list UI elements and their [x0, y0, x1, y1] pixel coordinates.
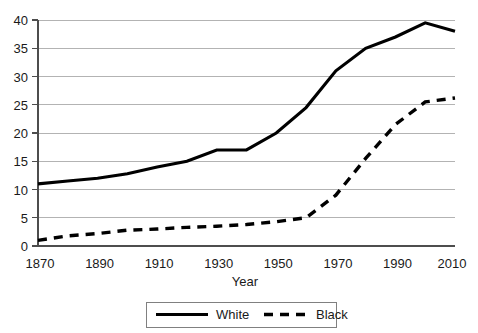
x-tick-label-1930: 1930	[204, 256, 233, 271]
y-tick-label-0: 0	[21, 239, 28, 254]
x-tick-label-2010: 2010	[438, 256, 467, 271]
x-tick-label-1990: 1990	[383, 256, 412, 271]
chart-legend: White Black	[146, 302, 348, 327]
y-tick-label-10: 10	[14, 183, 28, 198]
gridlines	[38, 20, 455, 218]
y-tick-label-20: 20	[14, 126, 28, 141]
series-line-black	[38, 98, 455, 240]
y-tickmarks	[32, 20, 38, 246]
y-tick-label-25: 25	[14, 98, 28, 113]
y-tick-label-15: 15	[14, 154, 28, 169]
legend-label-black: Black	[316, 307, 348, 322]
x-axis-title: Year	[232, 274, 259, 289]
line-chart: 40 35 30 25 20 15 10 5 0 1870 1890 1910 …	[0, 0, 478, 333]
x-tick-label-1970: 1970	[323, 256, 352, 271]
y-tick-label-40: 40	[14, 13, 28, 28]
y-tick-label-35: 35	[14, 41, 28, 56]
x-tick-label-1910: 1910	[145, 256, 174, 271]
x-tick-label-1870: 1870	[26, 256, 55, 271]
y-tick-label-5: 5	[21, 211, 28, 226]
y-tick-labels: 40 35 30 25 20 15 10 5 0	[14, 13, 28, 254]
y-tick-label-30: 30	[14, 70, 28, 85]
series-line-white	[38, 23, 455, 184]
x-tick-label-1890: 1890	[85, 256, 114, 271]
x-tick-label-1950: 1950	[264, 256, 293, 271]
chart-figure: 40 35 30 25 20 15 10 5 0 1870 1890 1910 …	[0, 0, 478, 333]
legend-label-white: White	[216, 307, 249, 322]
x-tick-labels: 1870 1890 1910 1930 1950 1970 1990 2010	[26, 256, 467, 271]
